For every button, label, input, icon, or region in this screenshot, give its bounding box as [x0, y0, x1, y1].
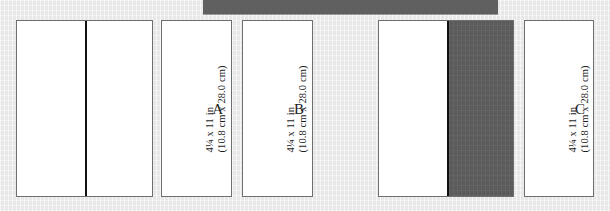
fold-line-icon	[85, 21, 87, 196]
fold-line-icon	[447, 21, 449, 196]
sheet-folded-c: 4¼ x 11 in (10.8 cm x 28.0 cm) C	[524, 20, 594, 197]
sheet-unfolded-2	[378, 20, 514, 197]
sheet-folded-b: 4¼ x 11 in (10.8 cm x 28.0 cm) B	[242, 20, 313, 197]
panel-letter-b: B	[294, 100, 304, 117]
figure-canvas: 4¼ x 11 in (10.8 cm x 28.0 cm) A 4¼ x 11…	[0, 0, 610, 211]
top-dark-bar	[203, 0, 498, 14]
sheet-unfolded-1	[16, 20, 153, 197]
sheet-folded-a: 4¼ x 11 in (10.8 cm x 28.0 cm) A	[161, 20, 232, 197]
panel-letter-a: A	[212, 100, 223, 117]
shaded-half-region	[449, 21, 513, 196]
panel-letter-c: C	[575, 100, 585, 117]
